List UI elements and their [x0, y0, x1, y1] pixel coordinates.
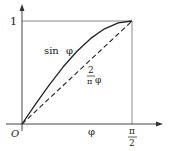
y-axis-arrow-icon [20, 4, 25, 11]
frac-denominator: π [87, 77, 92, 86]
origin-label: O [11, 128, 19, 139]
chart-canvas: 1 O φ π 2 sin φ 2 π φ [0, 0, 171, 151]
sin-label-text: sin [44, 45, 59, 56]
x-tick-pi: π [129, 126, 135, 136]
frac-numerator: 2 [88, 65, 94, 75]
x-axis-arrow-icon [156, 122, 163, 127]
y-tick-one: 1 [10, 15, 17, 28]
x-tick-two: 2 [129, 138, 135, 148]
linear-dashed-line [22, 21, 132, 124]
sin-label-phi: φ [66, 45, 73, 56]
frac-phi: φ [95, 75, 101, 85]
x-variable-label: φ [88, 126, 95, 137]
